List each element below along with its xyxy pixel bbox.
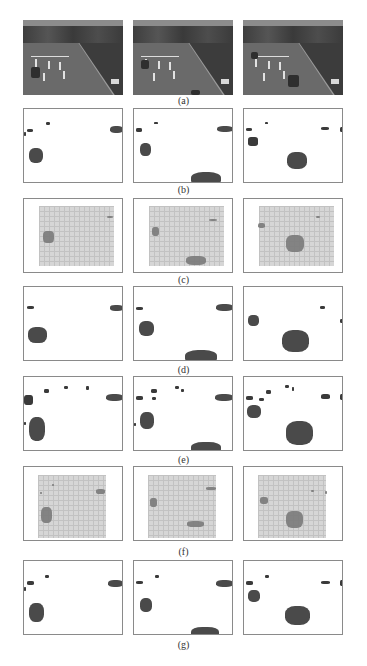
scene-stopline: [141, 56, 179, 57]
foreground-blob: [216, 304, 233, 311]
roadside-sign: [221, 79, 229, 84]
foreground-blob: [321, 127, 329, 130]
scene-trees: [133, 26, 233, 43]
foreground-blob: [136, 128, 142, 132]
lane-marking: [153, 73, 155, 81]
foreground-blob: [29, 603, 44, 622]
foreground-blob: [134, 423, 136, 426]
foreground-blob: [287, 152, 307, 169]
vehicle: [191, 90, 200, 95]
foreground-blob: [28, 327, 47, 343]
foreground-blob: [191, 172, 221, 183]
foreground-blob: [155, 575, 159, 578]
foreground-blob: [96, 489, 105, 494]
foreground-blob: [24, 132, 26, 136]
foreground-blob: [285, 606, 310, 625]
foreground-blob: [64, 386, 68, 389]
figure: (a)(b)(c)(d)(e)(f)(g): [0, 0, 367, 666]
foreground-blob: [185, 350, 217, 361]
lane-marking: [283, 71, 285, 79]
foreground-blob: [110, 305, 123, 311]
figure-panel-f-2: [133, 466, 233, 541]
foreground-blob: [282, 330, 309, 352]
foreground-blob: [140, 598, 152, 612]
foreground-blob: [316, 216, 320, 218]
figure-panel-a-2: [133, 20, 233, 95]
foreground-blob: [27, 129, 33, 132]
foreground-blob: [320, 306, 325, 309]
foreground-blob: [154, 122, 158, 124]
foreground-blob: [107, 216, 113, 218]
foreground-blob: [321, 394, 330, 399]
foreground-blob: [24, 587, 26, 591]
foreground-blob: [217, 126, 233, 132]
foreground-blob: [175, 386, 179, 389]
foreground-blob: [209, 219, 217, 221]
figure-panel-g-2: [133, 560, 233, 635]
foreground-blob: [248, 590, 260, 602]
lane-marking: [255, 59, 257, 67]
foreground-blob: [246, 128, 252, 131]
vehicle: [251, 52, 258, 59]
foreground-blob: [247, 405, 261, 418]
roadside-sign: [331, 79, 339, 84]
foreground-blob: [340, 394, 343, 400]
foreground-blob: [340, 319, 343, 323]
foreground-blob: [248, 315, 259, 326]
foreground-blob: [265, 575, 269, 578]
figure-caption-g: (g): [0, 640, 367, 650]
figure-panel-f-1: [23, 466, 123, 541]
foreground-blob: [206, 487, 216, 490]
foreground-blob: [260, 497, 268, 504]
foreground-blob: [285, 385, 289, 388]
figure-panel-c-1: [23, 198, 123, 273]
lane-marking: [59, 62, 61, 70]
figure-panel-b-2: [133, 108, 233, 183]
grid-overlay: [258, 475, 326, 538]
foreground-blob: [187, 521, 204, 527]
foreground-blob: [286, 421, 313, 445]
foreground-blob: [40, 492, 42, 494]
figure-panel-g-3: [243, 560, 343, 635]
foreground-blob: [136, 581, 143, 584]
foreground-blob: [321, 581, 330, 584]
figure-caption-f: (f): [0, 547, 367, 557]
foreground-blob: [140, 143, 151, 156]
foreground-blob: [52, 484, 54, 486]
lane-marking: [169, 62, 171, 70]
scene-stopline: [31, 56, 69, 57]
foreground-blob: [215, 394, 233, 401]
foreground-blob: [140, 412, 154, 429]
foreground-blob: [46, 122, 50, 125]
foreground-blob: [286, 235, 304, 252]
lane-marking: [43, 73, 45, 81]
lane-marking: [173, 71, 175, 79]
figure-panel-d-2: [133, 286, 233, 361]
figure-panel-b-3: [243, 108, 343, 183]
foreground-blob: [108, 580, 123, 587]
roadside-sign: [111, 79, 119, 84]
lane-marking: [263, 73, 265, 81]
figure-caption-a: (a): [0, 96, 367, 106]
foreground-blob: [136, 396, 143, 400]
foreground-blob: [216, 580, 233, 587]
lane-marking: [63, 71, 65, 79]
figure-caption-d: (d): [0, 365, 367, 375]
figure-caption-e: (e): [0, 455, 367, 465]
foreground-blob: [191, 442, 221, 451]
lane-marking: [48, 61, 50, 69]
figure-panel-a-1: [23, 20, 123, 95]
figure-panel-e-2: [133, 376, 233, 451]
foreground-blob: [292, 387, 294, 391]
foreground-blob: [136, 307, 143, 310]
foreground-blob: [248, 137, 258, 146]
foreground-blob: [152, 227, 159, 236]
foreground-blob: [340, 580, 343, 586]
foreground-blob: [24, 395, 33, 405]
foreground-blob: [258, 223, 265, 228]
grid-overlay: [148, 475, 216, 538]
foreground-blob: [265, 122, 268, 124]
figure-panel-d-3: [243, 286, 343, 361]
vehicle: [141, 60, 149, 69]
vehicle: [288, 75, 299, 87]
